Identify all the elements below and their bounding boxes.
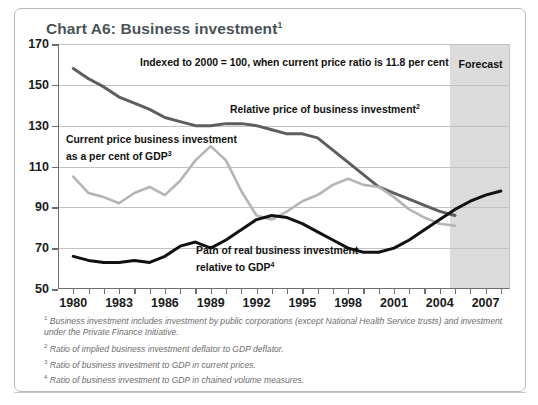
footnote-text: Ratio of implied business investment def… [47,343,283,353]
x-axis-label: 1998 [334,296,362,310]
x-tick-mark [287,289,288,294]
annotation-relative-price-sup: 2 [416,103,420,110]
y-tick-mark [52,289,58,291]
forecast-label: Forecast [458,58,502,70]
x-tick-mark [104,289,105,294]
y-axis-label: 150 [28,78,49,92]
y-axis-label: 70 [35,241,49,255]
x-tick-mark [333,289,334,294]
y-axis-label: 170 [28,37,49,51]
annotation-current-price: Current price business investmentas a pe… [66,133,266,163]
x-axis-label: 2004 [426,296,454,310]
footnotes-block: 1 Business investment includes investmen… [44,312,504,387]
x-tick-mark [470,289,471,294]
x-axis-label: 2007 [472,296,500,310]
annotation-real-path-line2: relative to GDP [196,262,271,273]
annotation-current-price-line1: Current price business investment [66,134,237,145]
footnote: 3 Ratio of business investment to GDP in… [44,356,504,371]
x-axis-label: 2001 [380,296,408,310]
x-tick-mark [241,289,242,294]
footnote: 4 Ratio of business investment to GDP in… [44,371,504,386]
x-tick-mark [455,289,456,294]
x-tick-mark [486,289,487,294]
chart-title-text: Chart A6: Business investment [46,20,277,37]
x-tick-mark [394,289,395,294]
x-axis-label: 1995 [288,296,316,310]
x-tick-mark [440,289,441,294]
x-tick-mark [150,289,151,294]
x-tick-mark [211,289,212,294]
x-axis-label: 1989 [197,296,225,310]
annotation-relative-price: Relative price of business investment2 [230,100,420,117]
x-tick-mark [363,289,364,294]
x-tick-mark [318,289,319,294]
chart-page: Chart A6: Business investment1 507090110… [0,0,538,405]
x-tick-mark [424,289,425,294]
annotation-real-path-line1: Path of real business investment [196,245,358,256]
y-axis-label: 50 [35,282,49,296]
bottom-divider [14,392,526,393]
x-tick-mark [302,289,303,294]
x-axis-label: 1983 [105,296,133,310]
y-axis-label: 90 [35,200,49,214]
y-axis-label: 130 [28,119,49,133]
annotation-indexed-note: Indexed to 2000 = 100, when current pric… [140,56,449,70]
annotation-real-path: Path of real business investmentrelative… [196,244,386,274]
page-title: Chart A6: Business investment1 [46,20,282,38]
x-tick-mark [165,289,166,294]
x-tick-mark [89,289,90,294]
x-tick-mark [73,289,74,294]
x-tick-mark [409,289,410,294]
footnote-text: Ratio of business investment to GDP in c… [47,375,304,385]
x-tick-mark [501,289,502,294]
annotation-real-path-sup: 4 [271,261,275,268]
footnote-text: Business investment includes investment … [44,316,502,338]
x-tick-mark [257,289,258,294]
annotation-relative-price-text: Relative price of business investment [230,104,416,115]
x-axis-label: 1980 [59,296,87,310]
x-tick-mark [348,289,349,294]
plot-area: 507090110130150170 198019831986198919921… [58,44,510,289]
x-tick-mark [379,289,380,294]
x-tick-mark [119,289,120,294]
x-tick-mark [134,289,135,294]
x-tick-mark [195,289,196,294]
x-axis-label: 1986 [151,296,179,310]
x-tick-mark [272,289,273,294]
annotation-current-price-line2: as a per cent of GDP [66,151,168,162]
y-axis-label: 110 [29,160,49,174]
footnote: 2 Ratio of implied business investment d… [44,340,504,355]
x-tick-mark [180,289,181,294]
footnote: 1 Business investment includes investmen… [44,312,504,339]
x-tick-mark [226,289,227,294]
footnote-text: Ratio of business investment to GDP in c… [47,359,255,369]
annotation-current-price-sup: 3 [168,150,172,157]
x-axis-label: 1992 [243,296,271,310]
chart-title-superscript: 1 [277,20,282,30]
